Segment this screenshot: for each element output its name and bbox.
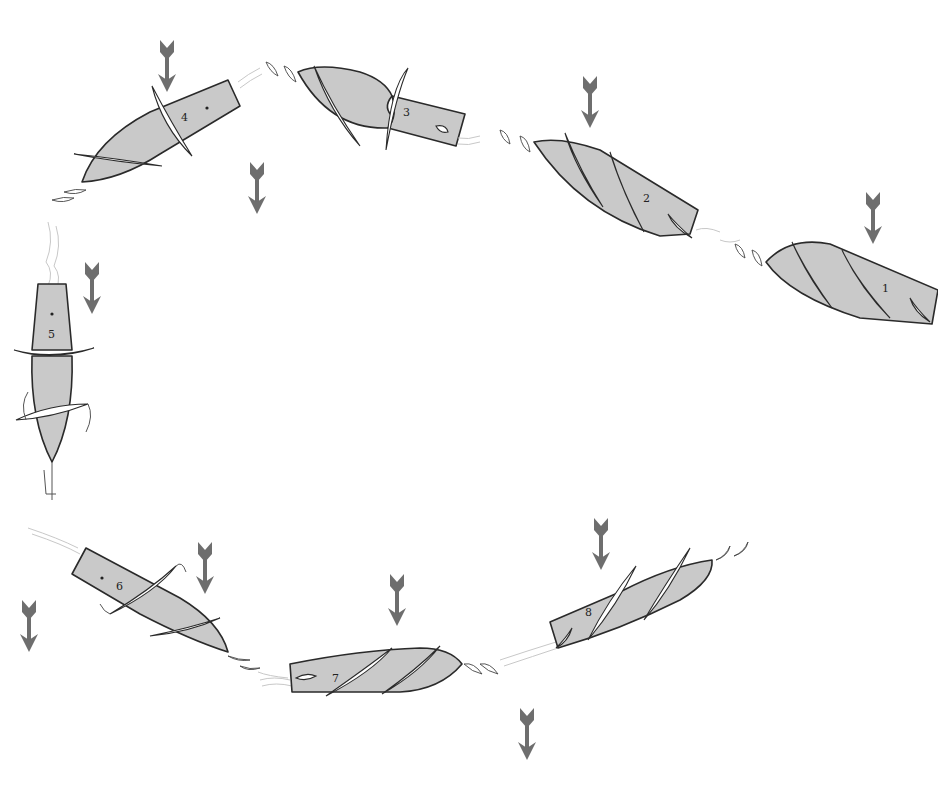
stage-1: 1: [720, 240, 938, 324]
stage-7: 7: [260, 646, 498, 696]
down-arrow-icon: [20, 600, 38, 652]
stage-7-label: 7: [332, 672, 339, 685]
down-arrow-icon: [248, 162, 266, 214]
stage-4-label: 4: [181, 111, 188, 124]
stage-4: 4: [52, 68, 262, 202]
stage-8: 8: [500, 542, 748, 666]
down-arrow-icon: [388, 574, 406, 626]
stage-6: 6: [28, 528, 288, 678]
stage-5: 5: [14, 222, 94, 500]
stage-3: 3: [266, 62, 480, 150]
stage-8-label: 8: [585, 606, 592, 619]
down-arrow-icon: [581, 76, 599, 128]
down-arrow-icon: [196, 542, 214, 594]
stage-3-label: 3: [403, 106, 410, 119]
down-arrow-icon: [83, 262, 101, 314]
stage-2-label: 2: [643, 192, 650, 205]
down-arrow-icon: [158, 40, 176, 92]
diagram-canvas: 1 2 3 4: [0, 0, 938, 796]
stage-1-label: 1: [882, 282, 889, 295]
stage-6-label: 6: [116, 580, 123, 593]
stage-5-label: 5: [48, 328, 55, 341]
down-arrow-icon: [518, 708, 536, 760]
stage-2: 2: [500, 130, 720, 238]
down-arrow-icon: [864, 192, 882, 244]
down-arrow-icon: [592, 518, 610, 570]
